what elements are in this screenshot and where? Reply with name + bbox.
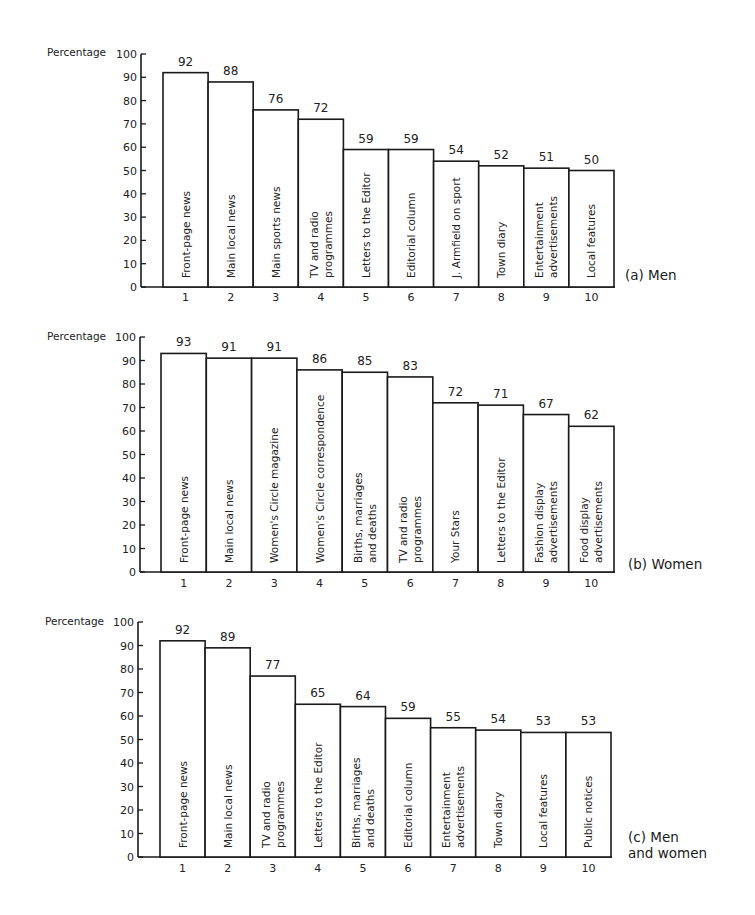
value-label: 86 <box>312 352 327 366</box>
value-label: 65 <box>310 686 325 700</box>
bar-item-label: Births, marriages <box>352 473 364 563</box>
y-tick-label: 40 <box>123 188 137 201</box>
bar-item-label: Front-page news <box>177 761 189 848</box>
x-tick-label: 9 <box>543 577 550 590</box>
x-tick-label: 2 <box>227 291 234 304</box>
bar-4 <box>298 119 343 287</box>
bar-item-label: Women's Circle magazine <box>268 428 280 563</box>
panel-title-line-1: (b) Women <box>628 556 702 572</box>
x-tick-label: 6 <box>405 862 412 875</box>
y-tick-label: 40 <box>122 472 136 485</box>
bar-item-label: Local features <box>585 204 597 278</box>
x-tick-label: 3 <box>269 862 276 875</box>
y-tick-label: 50 <box>123 165 137 178</box>
bar-5 <box>340 707 385 857</box>
x-tick-label: 7 <box>450 862 457 875</box>
bar-item-label: Town diary <box>492 792 504 849</box>
x-tick-label: 8 <box>497 577 504 590</box>
bar-3 <box>250 676 295 857</box>
y-tick-label: 40 <box>120 757 134 770</box>
bar-9 <box>523 415 568 572</box>
y-tick-label: 80 <box>120 663 134 676</box>
value-label: 89 <box>220 630 235 644</box>
x-tick-label: 6 <box>408 291 415 304</box>
x-tick-label: 4 <box>314 862 321 875</box>
x-tick-label: 7 <box>453 291 460 304</box>
y-tick-label: 70 <box>120 687 134 700</box>
y-tick-label: 20 <box>123 234 137 247</box>
x-tick-label: 2 <box>225 577 232 590</box>
value-label: 71 <box>493 387 508 401</box>
x-tick-label: 5 <box>359 862 366 875</box>
bar-item-label: Letters to the Editor <box>495 457 507 563</box>
x-tick-label: 9 <box>540 862 547 875</box>
panel-title-line-2: and women <box>628 845 707 861</box>
x-tick-label: 7 <box>452 577 459 590</box>
bar-item-label: Women's Circle correspondence <box>314 395 326 563</box>
value-label: 72 <box>313 101 328 115</box>
bar-6 <box>388 377 433 572</box>
bar-item-label: advertisements <box>547 196 559 278</box>
x-tick-label: 10 <box>584 577 598 590</box>
value-label: 91 <box>267 340 282 354</box>
value-label: 51 <box>539 150 554 164</box>
value-label: 54 <box>449 143 464 157</box>
value-label: 62 <box>584 408 599 422</box>
y-tick-label: 0 <box>130 281 137 294</box>
y-tick-label: 10 <box>120 828 134 841</box>
y-tick-label: 10 <box>123 258 137 271</box>
x-tick-label: 6 <box>407 577 414 590</box>
bar-item-label: Main sports news <box>270 187 282 278</box>
y-tick-label: 20 <box>120 804 134 817</box>
bar-item-label: programmes <box>322 211 334 278</box>
y-tick-label: 20 <box>122 519 136 532</box>
value-label: 59 <box>400 700 415 714</box>
y-tick-label: 90 <box>123 71 137 84</box>
x-tick-label: 3 <box>271 577 278 590</box>
chart-figure: Percentage (a) Men 010203040506070809010… <box>0 0 755 915</box>
value-label: 83 <box>403 359 418 373</box>
y-tick-label: 0 <box>127 851 134 864</box>
x-tick-label: 8 <box>495 862 502 875</box>
value-label: 72 <box>448 385 463 399</box>
x-tick-label: 1 <box>179 862 186 875</box>
y-tick-label: 50 <box>122 449 136 462</box>
y-axis-label: Percentage <box>47 46 106 58</box>
x-tick-label: 9 <box>543 291 550 304</box>
bar-item-label: Main local news <box>222 765 234 848</box>
y-axis-label: Percentage <box>47 330 106 342</box>
x-tick-label: 4 <box>316 577 323 590</box>
value-label: 55 <box>446 710 461 724</box>
x-tick-label: 10 <box>584 291 598 304</box>
bar-item-label: J. Armfield on sport <box>450 177 462 279</box>
y-tick-label: 80 <box>123 95 137 108</box>
bar-item-label: TV and radio <box>308 211 320 279</box>
y-tick-label: 80 <box>122 378 136 391</box>
bar-item-label: programmes <box>411 496 423 563</box>
x-tick-label: 4 <box>317 291 324 304</box>
y-tick-label: 50 <box>120 734 134 747</box>
value-label: 67 <box>538 397 553 411</box>
value-label: 92 <box>178 55 193 69</box>
y-tick-label: 90 <box>120 640 134 653</box>
y-tick-label: 0 <box>129 566 136 579</box>
y-tick-label: 100 <box>115 331 136 344</box>
bar-item-label: Letters to the Editor <box>312 742 324 848</box>
x-tick-label: 8 <box>498 291 505 304</box>
bar-item-label: Town diary <box>495 222 507 279</box>
value-label: 91 <box>221 340 236 354</box>
value-label: 93 <box>176 335 191 349</box>
bar-9 <box>524 168 569 287</box>
y-tick-label: 100 <box>116 48 137 61</box>
x-tick-label: 1 <box>182 291 189 304</box>
bar-item-label: Food display <box>578 497 590 563</box>
bar-item-label: Letters to the Editor <box>360 172 372 278</box>
bar-item-label: advertisements <box>454 766 466 848</box>
bar-item-label: Editorial column <box>402 763 414 848</box>
bar-item-label: TV and radio <box>260 781 272 849</box>
bar-item-label: Front-page news <box>178 476 190 563</box>
y-tick-label: 100 <box>113 616 134 629</box>
bar-item-label: Entertainment <box>533 202 545 278</box>
value-label: 53 <box>536 714 551 728</box>
value-label: 92 <box>175 623 190 637</box>
